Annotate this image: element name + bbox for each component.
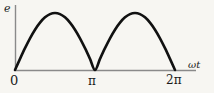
waveform-curve	[15, 13, 175, 70]
x-tick-label-0: 0	[10, 74, 18, 87]
x-tick-label-2pi: 2π	[166, 74, 182, 86]
y-axis-label: e	[4, 3, 11, 14]
x-tick-label-pi: π	[88, 75, 96, 87]
waveform-figure: e ωt 0 π 2π	[0, 0, 214, 93]
x-axis-label: ωt	[188, 60, 200, 70]
